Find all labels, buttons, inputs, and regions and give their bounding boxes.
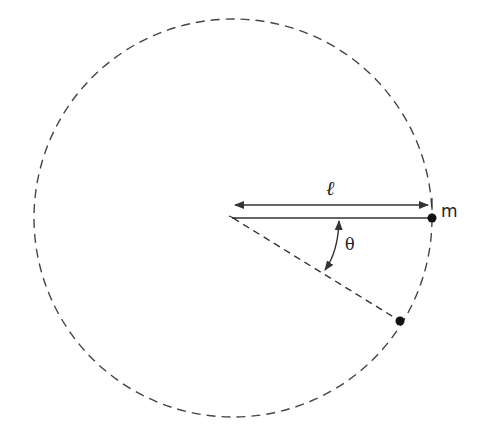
mass-initial	[428, 214, 437, 223]
angle-arc	[325, 221, 339, 270]
length-label: ℓ	[326, 176, 334, 200]
string-displaced	[233, 218, 400, 321]
pendulum-diagram	[0, 0, 477, 438]
mass-label: m	[441, 201, 458, 221]
mass-displaced	[396, 317, 405, 326]
angle-label: θ	[345, 235, 355, 254]
